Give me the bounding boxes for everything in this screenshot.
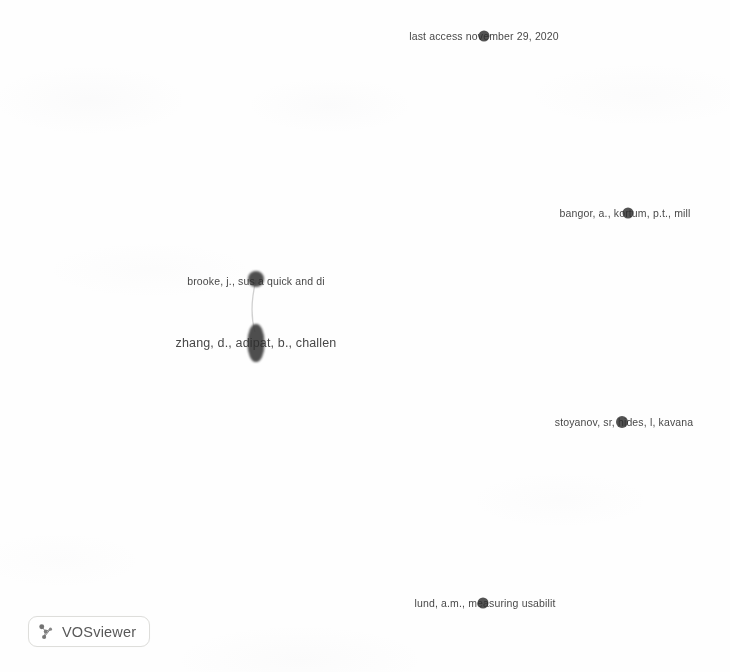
map-node-brooke[interactable]: [248, 271, 264, 287]
map-node-stoyanov[interactable]: [616, 416, 628, 428]
map-node-lund[interactable]: [478, 598, 489, 609]
map-node-zhang[interactable]: [248, 324, 265, 362]
edge-layer: [0, 0, 730, 672]
map-node-bangor[interactable]: [623, 208, 634, 219]
vosviewer-logo-text: VOSviewer: [62, 624, 136, 640]
map-node-last-access[interactable]: [479, 31, 490, 42]
network-cluster-icon: [37, 622, 56, 641]
vosviewer-logo-badge[interactable]: VOSviewer: [28, 616, 150, 647]
network-graph[interactable]: last access november 29, 2020 bangor, a.…: [0, 0, 730, 672]
vosviewer-canvas[interactable]: last access november 29, 2020 bangor, a.…: [0, 0, 730, 672]
